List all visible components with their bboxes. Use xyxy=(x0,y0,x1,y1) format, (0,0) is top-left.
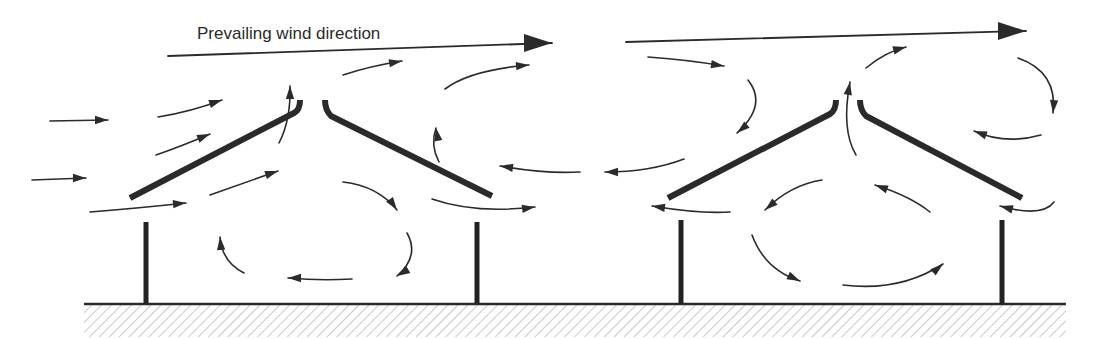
airflow-arrow xyxy=(752,235,802,285)
prevailing-wind-label: Prevailing wind direction xyxy=(197,24,380,43)
arrowhead-icon xyxy=(524,34,552,52)
arrowhead-icon xyxy=(216,237,225,251)
airflow-arrow xyxy=(432,199,536,213)
arrowhead-icon xyxy=(73,174,86,182)
roof-left-slope xyxy=(130,100,300,198)
airflow-arrow xyxy=(866,43,907,68)
airflow-arrow xyxy=(445,61,529,89)
arrowhead-icon xyxy=(288,274,301,282)
arrowhead-icon xyxy=(734,121,749,136)
arrowhead-icon xyxy=(892,43,907,54)
arrowhead-icon xyxy=(264,167,279,179)
arrowhead-icon xyxy=(208,96,223,108)
arrowhead-icon xyxy=(973,127,988,139)
arrowhead-icon xyxy=(196,130,211,143)
arrowhead-icon xyxy=(95,116,108,124)
airflow-arrows xyxy=(32,43,1058,286)
airflow-arrow xyxy=(32,174,86,182)
airflow-arrow xyxy=(973,127,1041,139)
arrowhead-icon xyxy=(1049,100,1058,114)
arrowhead-icon xyxy=(388,57,402,67)
airflow-arrow xyxy=(999,202,1054,213)
airflow-arrow xyxy=(605,159,684,176)
airflow-arrow xyxy=(844,81,856,155)
airflow-arrow xyxy=(734,80,756,136)
arrowhead-icon xyxy=(605,168,618,176)
arrowhead-icon xyxy=(930,261,945,276)
airflow-arrow xyxy=(648,57,725,70)
airflow-arrow xyxy=(210,167,279,195)
left-shelter xyxy=(130,100,492,304)
airflow-arrow xyxy=(343,182,400,212)
airflow-arrow xyxy=(1018,58,1058,113)
airflow-arrow xyxy=(843,261,946,287)
arrowhead-icon xyxy=(173,199,187,208)
prevailing-wind-arrow xyxy=(626,22,1026,42)
ventilation-airflow-diagram: Prevailing wind direction xyxy=(0,0,1097,339)
airflow-arrow xyxy=(499,162,580,173)
roof-right-slope xyxy=(325,100,492,196)
arrowhead-icon xyxy=(786,272,801,285)
arrowhead-icon xyxy=(874,181,889,193)
airflow-arrow xyxy=(651,202,730,213)
ground xyxy=(84,304,1066,337)
right-shelter xyxy=(668,100,1022,304)
airflow-arrow xyxy=(288,274,352,282)
airflow-arrow xyxy=(158,96,223,117)
airflow-arrow xyxy=(343,57,403,75)
arrowhead-icon xyxy=(516,61,530,70)
airflow-arrow xyxy=(762,180,822,213)
roof-right-slope xyxy=(860,100,1022,198)
arrowhead-icon xyxy=(999,202,1014,213)
airflow-arrow xyxy=(874,181,930,212)
arrowhead-icon xyxy=(998,22,1026,40)
airflow-arrow xyxy=(432,127,442,162)
airflow-arrow xyxy=(50,116,108,124)
arrowhead-icon xyxy=(844,81,854,95)
arrowhead-icon xyxy=(386,197,400,212)
arrowhead-icon xyxy=(395,266,410,280)
airflow-arrow xyxy=(216,237,244,273)
airflow-arrow xyxy=(395,233,412,280)
airflow-arrow xyxy=(156,130,212,155)
arrowhead-icon xyxy=(286,86,294,99)
airflow-arrow xyxy=(90,199,186,212)
shelters xyxy=(130,100,1022,304)
ground-hatching xyxy=(84,305,1066,337)
